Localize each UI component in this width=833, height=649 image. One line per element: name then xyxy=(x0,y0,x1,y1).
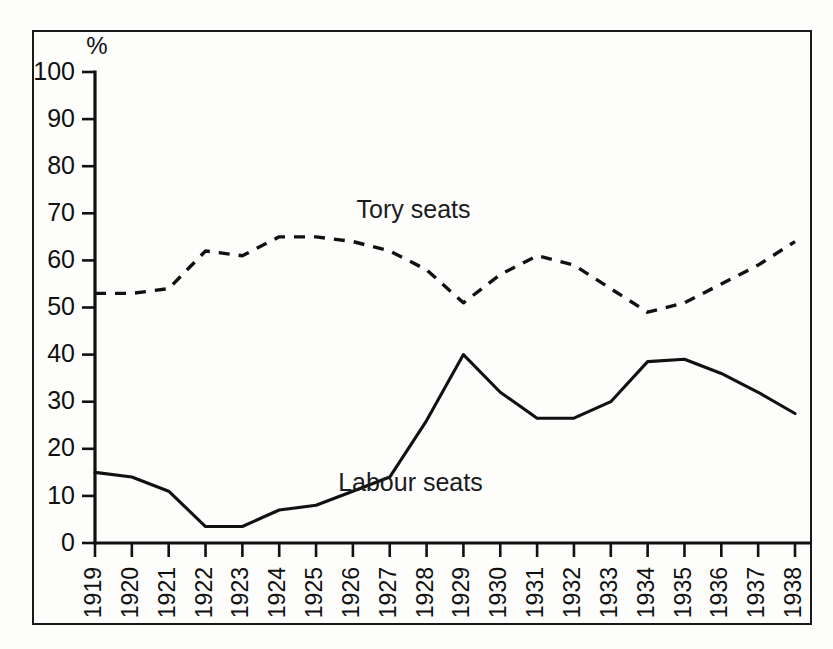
series-line-labour-seats xyxy=(95,355,795,527)
x-tick-label: 1926 xyxy=(338,567,364,618)
y-tick-label: 10 xyxy=(47,481,75,509)
y-tick-label: 60 xyxy=(47,245,75,273)
y-tick-label: 50 xyxy=(47,292,75,320)
line-chart: 0102030405060708090100% 1919192019211922… xyxy=(0,0,833,649)
y-tick-label: 100 xyxy=(33,57,75,85)
x-tick-label: 1924 xyxy=(264,567,290,618)
x-axis: 1919192019211922192319241925192619271928… xyxy=(80,543,809,618)
y-tick-label: 80 xyxy=(47,151,75,179)
series-label-tory-seats: Tory seats xyxy=(357,195,471,223)
y-tick-label: 0 xyxy=(61,528,75,556)
y-tick-label: 70 xyxy=(47,198,75,226)
x-tick-label: 1925 xyxy=(301,567,327,618)
x-tick-label: 1936 xyxy=(706,567,732,618)
y-tick-label: 30 xyxy=(47,386,75,414)
y-axis-unit-label: % xyxy=(86,32,107,59)
x-tick-label: 1919 xyxy=(80,567,106,618)
x-tick-label: 1937 xyxy=(743,567,769,618)
x-tick-label: 1932 xyxy=(559,567,585,618)
series-line-tory-seats xyxy=(95,237,795,312)
x-tick-label: 1923 xyxy=(227,567,253,618)
x-tick-label: 1929 xyxy=(448,567,474,618)
x-tick-label: 1931 xyxy=(522,567,548,618)
chart-page: 0102030405060708090100% 1919192019211922… xyxy=(0,0,833,649)
y-tick-label: 90 xyxy=(47,104,75,132)
x-tick-label: 1922 xyxy=(191,567,217,618)
series-label-labour-seats: Labour seats xyxy=(338,468,483,496)
y-tick-label: 20 xyxy=(47,433,75,461)
x-tick-label: 1920 xyxy=(117,567,143,618)
series-annotations: Tory seatsLabour seats xyxy=(338,195,483,496)
x-tick-label: 1938 xyxy=(780,567,806,618)
x-tick-label: 1933 xyxy=(596,567,622,618)
x-tick-label: 1935 xyxy=(670,567,696,618)
x-tick-label: 1930 xyxy=(485,567,511,618)
y-tick-label: 40 xyxy=(47,339,75,367)
x-tick-label: 1927 xyxy=(375,567,401,618)
x-tick-label: 1921 xyxy=(154,567,180,618)
x-tick-label: 1934 xyxy=(633,567,659,618)
x-tick-label: 1928 xyxy=(412,567,438,618)
